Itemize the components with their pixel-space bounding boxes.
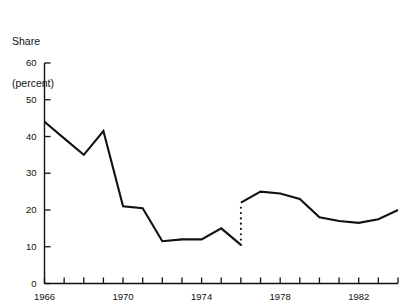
- x-tick-label: 1966: [25, 292, 65, 302]
- y-tick-marks: [45, 63, 51, 284]
- chart-container: Share (percent) 0102030405060 1966197019…: [0, 0, 411, 308]
- y-tick-label: 20: [11, 205, 37, 215]
- y-tick-label: 60: [11, 58, 37, 68]
- y-tick-label: 10: [11, 242, 37, 252]
- y-tick-label: 50: [11, 95, 37, 105]
- x-tick-label: 1974: [182, 292, 222, 302]
- axes: [45, 63, 399, 284]
- y-tick-label: 40: [11, 132, 37, 142]
- y-tick-label: 30: [11, 168, 37, 178]
- x-tick-label: 1970: [103, 292, 143, 302]
- y-tick-label: 0: [11, 279, 37, 289]
- x-tick-label: 1982: [339, 292, 379, 302]
- data-line-pre-break: [45, 122, 241, 245]
- plot-area: [0, 0, 411, 308]
- data-line-post-break: [241, 192, 398, 223]
- x-tick-label: 1978: [260, 292, 300, 302]
- x-tick-marks: [45, 278, 399, 284]
